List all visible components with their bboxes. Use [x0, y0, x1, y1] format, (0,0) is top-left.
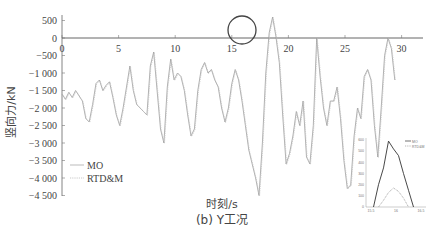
- svg-text:−500: −500: [36, 50, 57, 61]
- svg-text:−2 500: −2 500: [29, 120, 57, 131]
- svg-text:16: 16: [394, 209, 398, 213]
- svg-text:100: 100: [358, 194, 364, 198]
- svg-text:−4 000: −4 000: [29, 173, 57, 184]
- svg-text:500: 500: [358, 149, 364, 153]
- svg-text:0: 0: [52, 33, 57, 44]
- svg-text:600: 600: [358, 138, 364, 142]
- chart-caption: (b) Y工况: [196, 213, 248, 227]
- svg-text:−4 500: −4 500: [29, 190, 57, 201]
- svg-text:30: 30: [397, 43, 407, 54]
- svg-text:200: 200: [358, 183, 364, 187]
- inset-legend-mo: MO: [412, 140, 418, 144]
- svg-text:25: 25: [340, 43, 350, 54]
- svg-text:−3 500: −3 500: [29, 155, 57, 166]
- x-axis-label: 时刻/s: [206, 197, 238, 211]
- svg-text:300: 300: [358, 172, 364, 176]
- y-axis-label: 竖向力/kN: [4, 86, 18, 137]
- svg-text:400: 400: [358, 161, 364, 165]
- inset-y-ticks: 0100200300400500600: [358, 138, 364, 209]
- inset-mo-line: [374, 141, 414, 207]
- chart-canvas: 5000−500−1 000−1 500−2 000−2 500−3 000−3…: [0, 0, 447, 236]
- svg-text:16.5: 16.5: [418, 209, 425, 213]
- inset-x-ticks: 15.51616.5: [368, 209, 425, 213]
- svg-text:15: 15: [227, 43, 237, 54]
- svg-text:0: 0: [362, 205, 364, 209]
- legend: MO RTD&M: [70, 160, 123, 184]
- svg-text:−1 000: −1 000: [29, 68, 57, 79]
- svg-text:0: 0: [60, 43, 65, 54]
- highlight-circle: [228, 16, 256, 44]
- legend-mo-label: MO: [87, 160, 103, 171]
- svg-text:15.5: 15.5: [368, 209, 375, 213]
- svg-text:−2 000: −2 000: [29, 103, 57, 114]
- legend-rtdm-label: RTD&M: [87, 173, 123, 184]
- svg-text:−1 500: −1 500: [29, 85, 57, 96]
- inset-chart: 0100200300400500600 15.51616.5 MO RTD&M: [358, 138, 426, 213]
- svg-text:−3 000: −3 000: [29, 138, 57, 149]
- svg-text:10: 10: [170, 43, 180, 54]
- svg-text:20: 20: [283, 43, 293, 54]
- svg-text:5: 5: [116, 43, 121, 54]
- inset-legend-rtdm: RTD&M: [412, 145, 424, 149]
- inset-rtdm-line: [379, 188, 409, 207]
- svg-text:500: 500: [42, 15, 57, 26]
